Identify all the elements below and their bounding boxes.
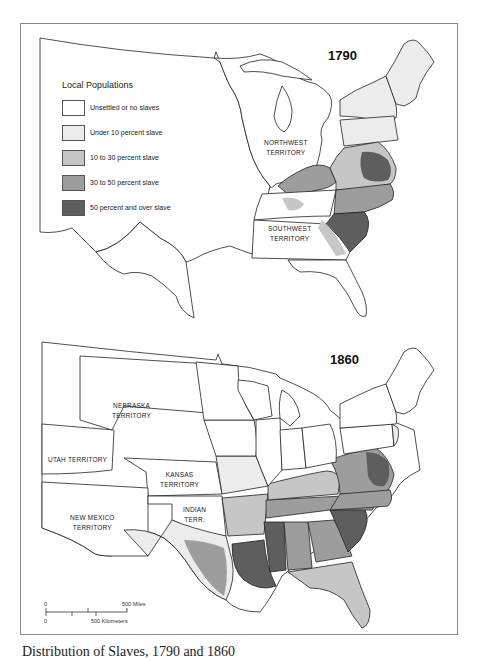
- legend-item-unsettled: Unsettled or no slaves: [62, 99, 171, 116]
- legend-item-50-plus: 50 percent and over slave: [62, 199, 171, 216]
- map-1860-arkansas: [222, 494, 268, 536]
- label-northwest-territory: NORTHWEST TERRITORY: [264, 138, 308, 158]
- map-1860-utah-territory: [42, 424, 114, 474]
- legend-label: 50 percent and over slave: [90, 204, 171, 211]
- legend-swatch: [62, 175, 85, 191]
- map-1860-alabama: [284, 522, 312, 570]
- scale-km-label: 500 Kilometers: [91, 618, 128, 624]
- label-kansas-territory: KANSAS TERRITORY: [160, 470, 199, 490]
- map-1860: [42, 342, 434, 628]
- scale-bar-graphic: [46, 608, 127, 616]
- legend-label: 30 to 50 percent slave: [90, 179, 159, 186]
- map-1790-florida: [288, 260, 367, 316]
- legend-label: 10 to 30 percent slave: [90, 154, 159, 161]
- label-indian-territory: INDIAN TERR.: [183, 505, 206, 525]
- label-southwest-territory: SOUTHWEST TERRITORY: [268, 224, 311, 244]
- label-line: NEBRASKA: [112, 401, 151, 411]
- label-line: TERRITORY: [70, 523, 115, 533]
- map-1790-year: 1790: [328, 48, 357, 63]
- label-line: TERRITORY: [264, 148, 308, 158]
- map-1860-indiana: [280, 428, 306, 470]
- legend-swatch: [62, 200, 85, 216]
- legend-item-10-to-30: 10 to 30 percent slave: [62, 149, 171, 166]
- label-line: TERR.: [183, 515, 206, 525]
- legend-swatch: [62, 150, 85, 166]
- label-line: NEW MEXICO: [70, 513, 115, 523]
- map-1860-ohio: [302, 424, 336, 468]
- map-1790-new-england: [386, 40, 434, 106]
- legend-label: Under 10 percent slave: [90, 129, 162, 136]
- label-nebraska-territory: NEBRASKA TERRITORY: [112, 401, 151, 421]
- label-line: NORTHWEST: [264, 138, 308, 148]
- scale-miles-label: 500 Miles: [122, 601, 146, 607]
- label-line: INDIAN: [183, 505, 206, 515]
- label-line: UTAH TERRITORY: [48, 455, 107, 465]
- label-line: TERRITORY: [160, 480, 199, 490]
- label-new-mexico-territory: NEW MEXICO TERRITORY: [70, 513, 115, 533]
- legend-item-30-to-50: 30 to 50 percent slave: [62, 174, 171, 191]
- legend-title: Local Populations: [62, 80, 171, 90]
- legend-swatch: [62, 100, 85, 116]
- legend: Local Populations Unsettled or no slaves…: [62, 80, 171, 224]
- legend-swatch: [62, 125, 85, 141]
- label-utah-territory: UTAH TERRITORY: [48, 455, 107, 465]
- scale-zero-miles: 0: [44, 601, 47, 607]
- map-1860-florida: [288, 562, 370, 628]
- figure-caption: Distribution of Slaves, 1790 and 1860: [22, 644, 235, 660]
- legend-item-under-10: Under 10 percent slave: [62, 124, 171, 141]
- legend-label: Unsettled or no slaves: [90, 104, 159, 111]
- map-1790-pennsylvania: [340, 116, 398, 146]
- label-line: TERRITORY: [112, 411, 151, 421]
- label-line: KANSAS: [160, 470, 199, 480]
- map-1860-new-england: [386, 348, 434, 414]
- label-line: TERRITORY: [268, 234, 311, 244]
- map-1860-year: 1860: [330, 352, 359, 367]
- scale-zero-km: 0: [44, 618, 47, 624]
- label-line: SOUTHWEST: [268, 224, 311, 234]
